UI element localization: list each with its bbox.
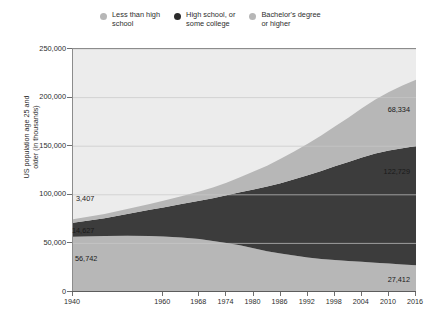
x-axis-line: [72, 291, 416, 292]
annotation-bachelors-end: 68,334: [352, 105, 410, 114]
x-tick-mark: [225, 292, 226, 296]
legend-item-bachelors-degree-or-higher[interactable]: Bachelor's degree or higher: [249, 10, 320, 28]
annotation-highschool-end: 122,729: [350, 167, 410, 176]
legend-swatch-less-than-high-school: [100, 13, 107, 20]
y-tick-label: 100,000: [4, 189, 66, 198]
annotation-lessthanhs-end: 27,412: [352, 275, 410, 284]
y-tick-label: 250,000: [4, 44, 66, 53]
x-tick-mark: [334, 292, 335, 296]
x-tick-mark: [388, 292, 389, 296]
annotation-bachelors-start: 3,407: [76, 194, 94, 203]
x-tick-label: 1960: [147, 297, 177, 306]
x-tick-mark: [162, 292, 163, 296]
legend-label-high-school-or-some-college: High school, or some college: [186, 10, 235, 28]
x-tick-label: 1940: [57, 297, 87, 306]
legend-swatch-bachelors-degree-or-higher: [249, 13, 256, 20]
chart-legend: Less than high school High school, or so…: [100, 10, 425, 42]
x-tick-label: 1974: [210, 297, 240, 306]
legend-label-bachelors-degree-or-higher: Bachelor's degree or higher: [261, 10, 320, 28]
legend-item-high-school-or-some-college[interactable]: High school, or some college: [174, 10, 235, 28]
y-tick-label: 0: [4, 287, 66, 296]
x-tick-mark: [280, 292, 281, 296]
x-tick-mark: [415, 292, 416, 296]
y-tick-label: 50,000: [4, 238, 66, 247]
x-tick-label: 1998: [319, 297, 349, 306]
x-tick-mark: [361, 292, 362, 296]
annotation-lessthanhs-start: 56,742: [75, 254, 97, 263]
x-tick-label: 1992: [292, 297, 322, 306]
x-tick-mark: [198, 292, 199, 296]
x-tick-label: 2016: [400, 297, 430, 306]
y-tick-label: 150,000: [4, 141, 66, 150]
x-tick-mark: [307, 292, 308, 296]
legend-swatch-high-school-or-some-college: [174, 13, 181, 20]
x-tick-label: 1968: [183, 297, 213, 306]
x-tick-label: 1980: [238, 297, 268, 306]
x-tick-mark: [253, 292, 254, 296]
x-tick-mark: [72, 292, 73, 296]
y-tick-label: 200,000: [4, 92, 66, 101]
area-chart: Less than high school High school, or so…: [0, 0, 431, 327]
x-tick-label: 2010: [373, 297, 403, 306]
legend-item-less-than-high-school[interactable]: Less than high school: [100, 10, 160, 28]
x-tick-label: 1986: [265, 297, 295, 306]
x-tick-label: 2004: [346, 297, 376, 306]
legend-label-less-than-high-school: Less than high school: [112, 10, 160, 28]
annotation-highschool-start: 14,627: [72, 226, 94, 235]
